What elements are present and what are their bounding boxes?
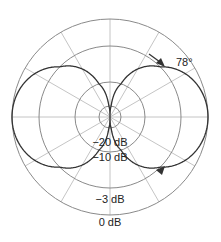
grid-spoke [110, 32, 159, 117]
ring-label-minus3: −3 dB [95, 193, 124, 205]
ring-label-0: 0 dB [99, 216, 122, 228]
grid-spoke [110, 68, 195, 117]
grid-spoke [61, 32, 110, 117]
ring-label-minus20: −20 dB [92, 136, 127, 148]
arrows [149, 54, 165, 175]
ring-label-minus10: −10 dB [92, 151, 127, 163]
polar-chart: 78° −20 dB −10 dB −3 dB 0 dB [0, 0, 221, 242]
angle-label: 78° [176, 56, 193, 68]
grid-spoke [25, 68, 110, 117]
